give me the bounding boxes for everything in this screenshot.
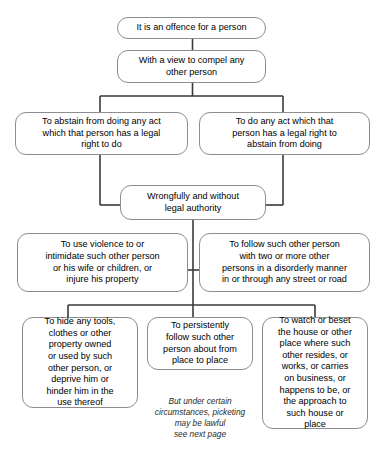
node-do-act: To do any act which that person has a le… <box>199 112 370 155</box>
node-with-view-label: With a view to compel any other person <box>139 55 245 78</box>
flowchart-diagram: It is an offence for a person With a vie… <box>0 0 387 476</box>
node-watch-beset: To watch or beset the house or other pla… <box>262 317 368 429</box>
node-violence-label: To use violence to or intimidate such ot… <box>45 239 159 285</box>
node-with-view: With a view to compel any other person <box>117 50 266 83</box>
node-wrongfully: Wrongfully and without legal authority <box>120 185 266 220</box>
node-violence: To use violence to or intimidate such ot… <box>17 233 188 292</box>
node-hide-tools-label: To hide any tools, clothes or other prop… <box>45 316 116 409</box>
node-wrongfully-label: Wrongfully and without legal authority <box>147 191 239 214</box>
node-abstain-label: To abstain from doing any act which that… <box>42 116 161 151</box>
node-abstain: To abstain from doing any act which that… <box>15 112 188 155</box>
node-do-act-label: To do any act which that person has a le… <box>232 116 337 151</box>
node-offence-label: It is an offence for a person <box>136 22 246 34</box>
node-persistently-follow-label: To persistently follow such other person… <box>163 320 237 366</box>
node-follow-disorderly: To follow such other person with two or … <box>199 233 370 292</box>
node-persistently-follow: To persistently follow such other person… <box>147 317 253 370</box>
node-watch-beset-label: To watch or beset the house or other pla… <box>278 315 352 431</box>
node-follow-disorderly-label: To follow such other person with two or … <box>222 239 347 285</box>
node-hide-tools: To hide any tools, clothes or other prop… <box>22 317 138 408</box>
picketing-note: But under certain circumstances, picketi… <box>140 396 260 440</box>
node-offence: It is an offence for a person <box>117 17 266 39</box>
